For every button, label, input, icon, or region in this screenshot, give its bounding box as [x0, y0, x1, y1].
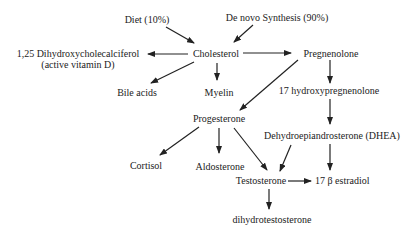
node-cortisol: Cortisol: [130, 160, 162, 171]
node-vitamin-d-line2: (active vitamin D): [41, 59, 114, 70]
node-testosterone: Testosterone: [236, 175, 286, 186]
node-diet: Diet (10%): [125, 14, 170, 25]
node-vitamin-d-line1: 1,25 Dihydroxycholecalciferol: [17, 48, 140, 59]
arrow-diet-to-cholesterol: [166, 27, 194, 43]
node-17-beta-estradiol: 17 β estradiol: [315, 175, 370, 186]
arrow-denovo-to-cholesterol: [234, 25, 253, 42]
node-cholesterol: Cholesterol: [193, 48, 239, 59]
arrow-progesterone-to-cortisol: [160, 127, 199, 155]
node-dihydrotestosterone: dihydrotestosterone: [233, 214, 312, 225]
node-dhea: Dehydroepiandrosterone (DHEA): [264, 130, 400, 141]
node-aldosterone: Aldosterone: [196, 161, 245, 172]
node-de-novo-synthesis: De novo Synthesis (90%): [226, 12, 329, 23]
node-progesterone: Progesterone: [193, 113, 245, 124]
arrow-cholesterol-to-bile: [151, 62, 194, 83]
pathway-diagram: Diet (10%) De novo Synthesis (90%) 1,25 …: [0, 0, 417, 236]
arrow-dhea-to-testosterone: [280, 145, 291, 171]
node-myelin: Myelin: [205, 87, 234, 98]
node-bile-acids: Bile acids: [117, 87, 157, 98]
node-pregnenolone: Pregnenolone: [304, 48, 359, 59]
node-17-hydroxypregnenolone: 17 hydroxypregnenolone: [279, 85, 379, 96]
